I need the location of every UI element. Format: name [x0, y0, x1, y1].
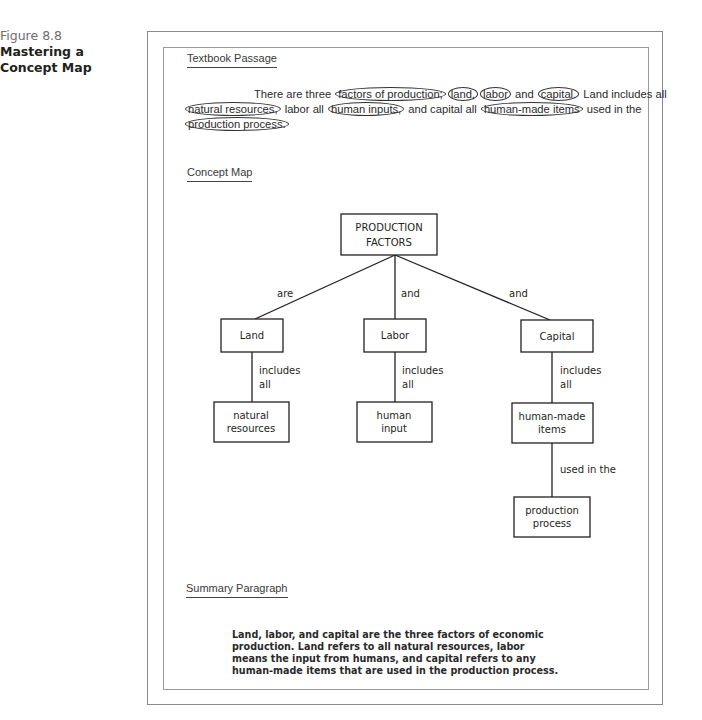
summary-line: human-made items that are used in the pr…: [232, 665, 632, 677]
link-label-are: are: [277, 288, 293, 299]
node-natural-resources-line1: natural: [233, 410, 269, 421]
sublink-used-in-the: used in the: [560, 464, 616, 475]
node-production-process-box: [514, 497, 590, 537]
node-human-input-box: [357, 402, 432, 442]
summary-line: production. Land refers to all natural r…: [232, 641, 632, 653]
sublink-land-line1: includes: [259, 365, 300, 376]
sublink-land-line2: all: [259, 379, 271, 390]
node-root-line2: FACTORS: [366, 237, 412, 248]
concept-map: PRODUCTION FACTORS Land Labor Capital na…: [0, 0, 702, 720]
summary-heading: Summary Paragraph: [186, 582, 288, 598]
link-label-and-capital: and: [509, 288, 528, 299]
summary-paragraph: Land, labor, and capital are the three f…: [232, 629, 632, 677]
edge-root-land: [255, 255, 395, 319]
sublink-labor-line1: includes: [402, 365, 443, 376]
node-human-made-items-box: [512, 403, 593, 443]
node-human-made-items-line1: human-made: [519, 411, 586, 422]
node-capital: Capital: [539, 331, 574, 342]
node-land: Land: [240, 330, 264, 341]
node-production-process-line2: process: [533, 518, 571, 529]
summary-line: means the input from humans, and capital…: [232, 653, 632, 665]
node-human-input-line1: human: [377, 410, 412, 421]
sublink-capital-line2: all: [560, 379, 572, 390]
node-natural-resources-box: [214, 402, 289, 442]
node-labor: Labor: [381, 330, 410, 341]
link-label-and-labor: and: [401, 288, 420, 299]
sublink-labor-line2: all: [402, 379, 414, 390]
node-human-input-line2: input: [381, 423, 407, 434]
node-root-box: [341, 214, 437, 255]
node-human-made-items-line2: items: [538, 424, 566, 435]
node-natural-resources-line2: resources: [227, 423, 275, 434]
node-root-line1: PRODUCTION: [355, 222, 422, 233]
summary-line: Land, labor, and capital are the three f…: [232, 629, 632, 641]
node-production-process-line1: production: [525, 505, 579, 516]
sublink-capital-line1: includes: [560, 365, 601, 376]
